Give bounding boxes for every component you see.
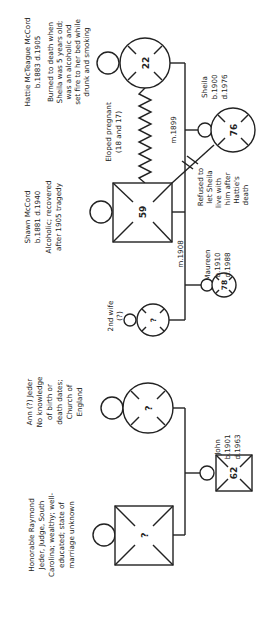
- judge-index-circle: [93, 524, 115, 546]
- hattie-index-circle: [97, 52, 119, 74]
- ann-index-circle: [101, 397, 123, 419]
- person-hattie[interactable]: 22: [97, 38, 170, 88]
- svg-text:marriage unknown: marriage unknown: [67, 501, 76, 569]
- person-judge[interactable]: ?: [93, 506, 173, 565]
- svg-text:John: John: [213, 439, 222, 456]
- svg-text:Carolina; wealthy; well-: Carolina; wealthy; well-: [47, 492, 56, 577]
- svg-text:after 1905 tragedy: after 1905 tragedy: [54, 182, 63, 251]
- svg-text:b.1910: b.1910: [213, 252, 222, 278]
- maureen-age: 78: [220, 280, 229, 290]
- svg-text:live with: live with: [214, 178, 223, 208]
- svg-text:2nd wife: 2nd wife: [106, 300, 115, 331]
- hattie-label: Hattie McTeague McCord b.1883 d.1905 Bur…: [23, 17, 91, 106]
- svg-text:Shawn McCord: Shawn McCord: [23, 190, 32, 243]
- svg-text:d.1963: d.1963: [233, 434, 242, 459]
- svg-text:Burned to death when: Burned to death when: [46, 22, 55, 102]
- svg-text:b.1881 d.1940: b.1881 d.1940: [33, 190, 42, 243]
- svg-text:death: death: [241, 185, 250, 206]
- person-john[interactable]: 62: [200, 455, 252, 491]
- shawn-age: 59: [138, 206, 148, 219]
- eloped-zigzag: [139, 88, 151, 183]
- judge-age: ?: [140, 532, 150, 537]
- svg-text:d.1988: d.1988: [223, 252, 232, 278]
- svg-text:Honorable Raymond: Honorable Raymond: [27, 498, 36, 571]
- sheila-age: 76: [229, 124, 239, 137]
- cutoff-mark-2: [187, 156, 198, 164]
- second-wife-label: 2nd wife (?): [106, 300, 124, 331]
- svg-text:educated; state of: educated; state of: [57, 502, 66, 568]
- hattie-age: 22: [141, 57, 151, 70]
- judge-label: Honorable Raymond Jeder, Judge, South Ca…: [27, 492, 76, 577]
- svg-text:was an alcoholic and: was an alcoholic and: [64, 24, 73, 99]
- svg-text:Eloped pregnant: Eloped pregnant: [104, 102, 113, 162]
- svg-text:England: England: [75, 387, 84, 416]
- svg-text:death dates;: death dates;: [55, 379, 64, 424]
- second-wife-age: ?: [149, 318, 158, 322]
- marriage-1899-label: m.1899: [169, 116, 178, 144]
- john-age: 62: [229, 467, 239, 480]
- person-shawn[interactable]: 59: [90, 183, 172, 242]
- svg-text:Jeder, Judge, South: Jeder, Judge, South: [37, 501, 46, 571]
- svg-text:No knowledge: No knowledge: [35, 376, 44, 428]
- shawn-index-circle: [90, 201, 112, 223]
- genogram-stage: 22 Hattie McTeague McCord b.1883 d.1905 …: [0, 0, 274, 627]
- ann-age: ?: [144, 405, 154, 410]
- svg-text:Church of: Church of: [65, 384, 74, 419]
- svg-text:Refused to: Refused to: [196, 168, 205, 206]
- svg-text:Maureen: Maureen: [203, 249, 212, 280]
- genogram-diagram: 22 Hattie McTeague McCord b.1883 d.1905 …: [0, 0, 274, 627]
- john-index-circle: [200, 466, 214, 480]
- shawn-label: Shawn McCord b.1881 d.1940 Alcoholic; re…: [23, 181, 63, 254]
- svg-text:Hattie McTeague McCord: Hattie McTeague McCord: [23, 17, 32, 106]
- ann-label: Ann (?) Jeder No knowledge of birth or d…: [25, 376, 84, 428]
- svg-text:let Sheila: let Sheila: [205, 170, 214, 203]
- person-ann[interactable]: ?: [101, 383, 173, 433]
- cutoff-label: Refused to let Sheila live with him afte…: [196, 168, 250, 208]
- second-wife-index-circle: [124, 314, 136, 326]
- svg-text:drunk and smoking: drunk and smoking: [82, 27, 91, 96]
- maureen-label: Maureen b.1910 d.1988: [203, 249, 232, 280]
- svg-text:set fire to her bed while: set fire to her bed while: [73, 19, 82, 105]
- svg-text:b.1900: b.1900: [210, 74, 219, 100]
- marriage-1908-label: m.1908: [176, 240, 185, 268]
- svg-text:b.1901: b.1901: [223, 434, 232, 459]
- sheila-index-circle: [198, 123, 212, 137]
- eloped-label: Eloped pregnant (18 and 17): [104, 102, 123, 162]
- svg-text:him after: him after: [223, 173, 232, 206]
- svg-text:of birth or: of birth or: [45, 384, 54, 420]
- person-sheila[interactable]: 76: [198, 108, 255, 152]
- svg-text:(?): (?): [115, 311, 124, 321]
- maureen-index-circle: [201, 279, 213, 291]
- svg-text:Hattie's: Hattie's: [232, 176, 241, 204]
- svg-text:Ann (?) Jeder: Ann (?) Jeder: [25, 379, 34, 426]
- svg-text:(18 and 17): (18 and 17): [114, 111, 123, 153]
- svg-text:Alcoholic; recovered: Alcoholic; recovered: [44, 181, 53, 254]
- sheila-label: Sheila b.1900 d.1976: [200, 74, 229, 100]
- svg-text:b.1883 d.1905: b.1883 d.1905: [33, 36, 42, 89]
- svg-text:Sheila was 5 years old;: Sheila was 5 years old;: [55, 21, 64, 104]
- svg-text:d.1976: d.1976: [220, 74, 229, 100]
- person-second-wife[interactable]: ?: [124, 304, 169, 336]
- svg-text:Sheila: Sheila: [200, 76, 209, 98]
